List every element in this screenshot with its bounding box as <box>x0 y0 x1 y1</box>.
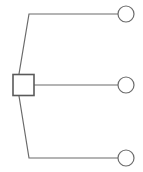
kinship-diagram <box>0 0 143 172</box>
link-subject-to-partner-1 <box>19 14 118 74</box>
node-subject-male-square[interactable] <box>13 75 34 96</box>
node-partner-1-female-circle[interactable] <box>118 6 134 22</box>
node-partner-2-female-circle[interactable] <box>118 77 134 93</box>
node-partner-3-female-circle[interactable] <box>118 150 134 166</box>
node-group <box>13 6 134 166</box>
link-subject-to-partner-3 <box>19 96 118 158</box>
diagram-canvas <box>0 0 143 172</box>
